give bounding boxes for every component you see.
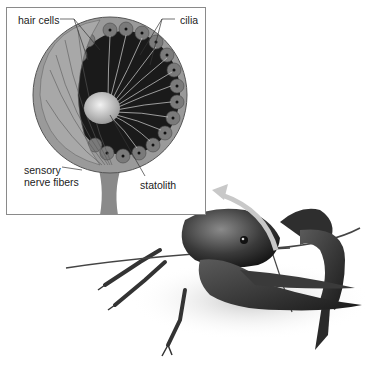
label-nerve-fibers: nerve fibers xyxy=(24,176,79,188)
label-statolith: statolith xyxy=(140,179,176,191)
label-hair-cells: hair cells xyxy=(18,14,59,26)
statolith xyxy=(84,92,120,124)
diagram-stage: hair cells cilia sensory nerve fibers st… xyxy=(0,0,380,367)
label-sensory: sensory xyxy=(24,164,61,176)
label-cilia: cilia xyxy=(180,14,198,26)
